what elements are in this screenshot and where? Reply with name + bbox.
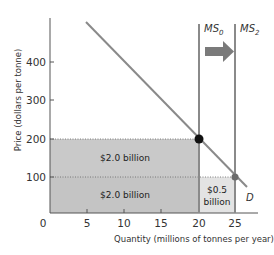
equilibrium-new <box>232 174 239 181</box>
x-tick-label-15: 15 <box>154 217 167 229</box>
area-small-label-1: $0.5 <box>207 185 227 195</box>
y-tick-label-100: 100 <box>26 171 46 183</box>
x-tick-label-0: 0 <box>40 217 47 229</box>
y-axis-title: Price (dollars per tonne) <box>13 49 23 152</box>
y-tick-label-200: 200 <box>26 133 46 145</box>
area-small-label-2: billion <box>204 197 231 207</box>
x-tick-label-10: 10 <box>117 217 130 229</box>
equilibrium-initial <box>195 135 204 144</box>
area-small <box>199 177 235 213</box>
demand-label: D <box>246 192 254 203</box>
area-bottom-label: $2.0 billion <box>100 190 150 200</box>
x-tick-label-25: 25 <box>228 217 241 229</box>
y-tick-label-300: 300 <box>26 94 46 106</box>
ms2-label: MS2 <box>240 23 260 37</box>
area-top-label: $2.0 billion <box>100 153 150 163</box>
shift-arrow-icon <box>205 41 234 62</box>
x-axis-title: Quantity (millions of tonnes per year) <box>114 234 274 244</box>
x-tick-label-5: 5 <box>84 217 91 229</box>
ms0-label: MS0 <box>204 23 224 37</box>
y-tick-label-400: 400 <box>26 56 46 68</box>
chart: 400 300 200 100 0 5 10 15 20 25 Quantity… <box>0 0 274 255</box>
x-tick-label-20: 20 <box>192 217 205 229</box>
